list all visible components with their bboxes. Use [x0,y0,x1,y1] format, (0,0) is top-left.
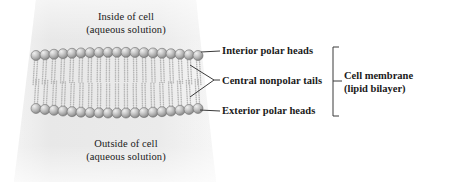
interior-polar-heads-group [31,47,203,60]
nonpolar-tail [100,83,102,108]
polar-head-sphere [112,108,122,118]
polar-head-sphere [31,51,41,61]
nonpolar-tail [159,82,161,107]
caption-outside-line2: (aqueous solution) [46,150,206,163]
nonpolar-tail [124,57,126,82]
cell-membrane-diagram: Inside of cell (aqueous solution) Outsid… [0,0,455,182]
nonpolar-tail [109,57,111,82]
polar-head-sphere [40,50,50,60]
group-label-line2: (lipid bilayer) [344,82,413,95]
nonpolar-tail [194,79,197,104]
label-interior-polar-heads: Interior polar heads [222,45,313,57]
nonpolar-tail [135,83,137,108]
nonpolar-tail [115,83,117,108]
nonpolar-tail [181,59,184,84]
caption-outside-of-cell: Outside of cell (aqueous solution) [46,137,206,163]
nonpolar-tail [145,57,147,82]
nonpolar-tail [124,83,126,108]
nonpolar-tail [60,58,62,83]
polar-head-sphere [175,105,185,115]
polar-head-sphere [67,107,77,117]
nonpolar-tail [160,58,162,83]
polar-head-sphere [94,47,104,57]
polar-head-sphere [121,47,131,57]
nonpolar-tail [142,57,144,82]
polar-head-sphere [139,48,149,58]
nonpolar-tail [78,58,80,83]
exterior-polar-heads-group [31,104,203,119]
caption-inside-line1: Inside of cell [46,10,206,23]
nonpolar-tail [63,58,65,83]
polar-head-sphere [184,50,194,60]
nonpolar-tail [87,57,89,82]
nonpolar-tail [118,83,120,108]
nonpolar-tail [178,59,181,84]
nonpolar-tail [96,57,98,82]
polar-head-sphere [49,49,59,59]
nonpolar-tail [72,58,74,83]
nonpolar-tail [177,81,180,106]
nonpolar-tail [154,58,156,83]
nonpolar-tail [61,81,63,106]
nonpolar-tail [172,58,174,83]
nonpolar-tail [70,82,72,107]
nonpolar-tail [162,82,164,107]
caption-inside-of-cell: Inside of cell (aqueous solution) [46,10,206,36]
nonpolar-tail [106,57,108,82]
nonpolar-tail [127,83,129,108]
nonpolar-tail [109,83,111,108]
polar-head-sphere [166,106,176,116]
polar-head-sphere [49,105,59,115]
nonpolar-tail [141,83,143,108]
polar-head-sphere [193,51,203,61]
polar-head-sphere [121,108,131,118]
nonpolar-tail [132,83,134,108]
nonpolar-tail [73,82,75,107]
polar-head-sphere [85,108,95,118]
nonpolar-tail [32,60,35,85]
polar-head-sphere [148,107,158,117]
nonpolar-tail [168,81,170,106]
polar-head-sphere [76,107,86,117]
label-cell-membrane-group: Cell membrane (lipid bilayer) [344,69,413,95]
nonpolar-tail [64,81,66,106]
nonpolar-tail [133,57,135,82]
polar-head-sphere [193,104,203,114]
polar-head-sphere [130,108,140,118]
polar-head-sphere [112,47,122,57]
label-central-nonpolar-tails: Central nonpolar tails [222,75,322,87]
nonpolar-tail [150,82,152,107]
nonpolar-tail [163,58,165,83]
nonpolar-tail [144,83,146,108]
nonpolar-tail [199,60,202,85]
nonpolar-tail [127,57,129,82]
nonpolar-tail [190,60,193,85]
polar-head-sphere [103,47,113,57]
polar-head-sphere [139,108,149,118]
nonpolar-tail [69,58,71,83]
polar-head-sphere [67,48,77,58]
polar-head-sphere [40,104,50,114]
nonpolar-tail [46,80,49,105]
polar-head-sphere [58,49,68,59]
polar-head-sphere [166,49,176,59]
polar-head-sphere [157,107,167,117]
nonpolar-tail [82,82,84,107]
caption-inside-line2: (aqueous solution) [46,23,206,36]
nonpolar-tail [81,58,83,83]
label-exterior-polar-heads: Exterior polar heads [222,105,315,117]
nonpolar-tail [79,82,81,107]
nonpolar-tail [55,81,58,106]
nonpolar-tail [97,83,99,108]
polar-head-sphere [58,106,68,116]
nonpolar-tail [52,81,55,106]
nonpolar-tail [51,59,54,84]
nonpolar-tail [106,83,108,108]
nonpolar-tail [90,57,92,82]
polar-head-sphere [85,48,95,58]
nonpolar-tail [151,58,153,83]
nonpolar-tail [180,81,183,106]
nonpolar-tail [118,57,120,82]
nonpolar-tails-group [32,57,201,108]
nonpolar-tail [136,57,138,82]
